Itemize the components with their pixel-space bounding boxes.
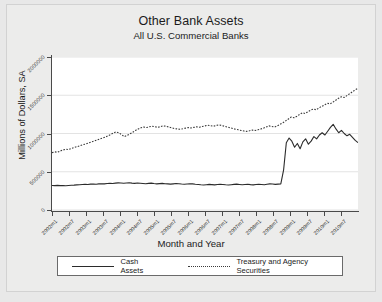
y-axis-tick (47, 57, 51, 58)
chart-legend: Cash Assets Treasury and Agency Securiti… (57, 256, 343, 276)
x-axis-tick (205, 212, 206, 216)
plot-svg (52, 57, 358, 210)
x-axis-tick (222, 212, 223, 216)
y-axis-tick (47, 95, 51, 96)
x-axis-tick (103, 212, 104, 216)
x-axis-tick (52, 212, 53, 216)
x-axis-tick (341, 212, 342, 216)
series-line-2 (52, 88, 358, 152)
plot-area (52, 57, 358, 210)
y-axis-line (51, 55, 52, 212)
x-axis-tick (188, 212, 189, 216)
x-axis-tick (256, 212, 257, 216)
x-axis-tick (171, 212, 172, 216)
x-axis-tick (69, 212, 70, 216)
chart-title: Other Bank Assets (0, 14, 382, 29)
y-axis-title: Millions of Dollars, SA (17, 55, 27, 175)
y-axis-tick (47, 172, 51, 173)
legend-entry-cash-assets: Cash Assets (72, 257, 162, 275)
x-axis-title: Month and Year (0, 238, 382, 249)
x-axis-tick (154, 212, 155, 216)
legend-entry-treasury-securities: Treasury and Agency Securities (188, 257, 342, 275)
x-axis-tick (120, 212, 121, 216)
title-block: Other Bank Assets All U.S. Commercial Ba… (0, 14, 382, 42)
y-axis-tick (47, 134, 51, 135)
x-axis-tick (273, 212, 274, 216)
x-axis-tick (324, 212, 325, 216)
dotted-line-key-icon (188, 263, 229, 270)
chart-subtitle: All U.S. Commercial Banks (0, 29, 382, 42)
x-axis-tick (307, 212, 308, 216)
gridlines (52, 57, 358, 210)
solid-line-key-icon (72, 263, 113, 270)
x-axis-tick (239, 212, 240, 216)
x-axis-tick (290, 212, 291, 216)
legend-label-treasury-securities: Treasury and Agency Securities (236, 257, 342, 275)
series-group (52, 88, 358, 185)
y-axis-tick (47, 210, 51, 211)
x-axis-tick (86, 212, 87, 216)
x-axis-tick (137, 212, 138, 216)
legend-label-cash-assets: Cash Assets (120, 257, 162, 275)
chart-screenshot: Other Bank Assets All U.S. Commercial Ba… (0, 0, 382, 302)
